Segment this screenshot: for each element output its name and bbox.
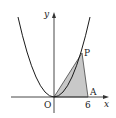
tick-6-label: 6 — [85, 100, 91, 110]
point-p-label: P — [84, 48, 90, 58]
parabola-triangle-figure: y x O P A 6 — [0, 0, 116, 118]
x-axis-label: x — [104, 99, 109, 109]
y-axis-arrow-icon — [52, 12, 56, 18]
diagram-canvas: y x O P A 6 — [0, 0, 116, 118]
origin-label: O — [44, 100, 51, 110]
y-axis-label: y — [43, 9, 50, 19]
triangle-opa — [54, 53, 88, 97]
point-a-label: A — [89, 87, 97, 97]
